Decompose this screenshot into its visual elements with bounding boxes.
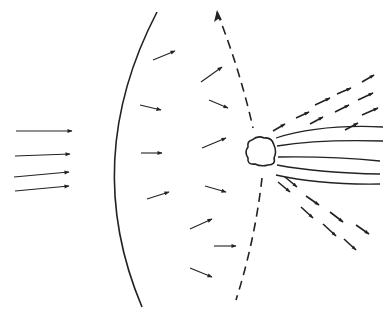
dashed-wavefront-upper <box>217 12 253 128</box>
scattered-arrow-icon <box>278 182 290 192</box>
arrow-right-icon <box>15 154 70 156</box>
field-arrow-icon <box>190 219 212 229</box>
scattered-arrow-icon <box>306 196 319 205</box>
scattered-arrow-icon <box>273 124 285 131</box>
streamlines <box>276 126 383 184</box>
streamline <box>277 165 380 174</box>
scattered-arrow-icon <box>323 224 336 236</box>
field-arrow-icon <box>190 268 212 277</box>
dashed-wavefront-lower <box>236 178 262 300</box>
arrow-right-icon <box>15 186 69 191</box>
field-arrow-icon <box>201 67 222 82</box>
scattered-arrow-icon <box>356 225 369 234</box>
scattered-arrow-icon <box>335 105 349 112</box>
dashed-wavefront <box>214 10 262 300</box>
scattering-diagram <box>0 0 389 316</box>
field-arrow-icon <box>153 51 175 60</box>
field-arrows <box>140 51 236 277</box>
scattered-arrow-icon <box>358 93 373 100</box>
field-arrow-icon <box>202 138 226 148</box>
scattered-arrow-icon <box>330 212 343 222</box>
scattered-arrow-icon <box>310 117 323 124</box>
streamline <box>276 126 383 138</box>
field-arrow-icon <box>205 186 226 192</box>
scattering-obstacle <box>246 137 276 166</box>
scattered-arrows-lower <box>278 177 369 250</box>
scattered-arrow-icon <box>301 207 313 218</box>
streamline <box>277 141 383 146</box>
streamline <box>278 157 380 161</box>
solid-wavefront <box>114 12 157 307</box>
diagram-canvas <box>0 0 389 316</box>
scattered-arrow-icon <box>344 239 356 250</box>
scattered-arrow-icon <box>315 98 330 105</box>
field-arrow-icon <box>140 105 161 110</box>
incident-wave-arrows <box>14 131 72 191</box>
scattered-arrow-icon <box>362 75 374 82</box>
scattered-arrows-upper <box>273 75 378 131</box>
scattered-arrow-icon <box>296 112 309 118</box>
scattered-arrow-icon <box>337 88 351 94</box>
field-arrow-icon <box>147 192 169 199</box>
arrow-right-icon <box>14 172 69 177</box>
scattered-arrow-icon <box>362 108 378 115</box>
field-arrow-icon <box>209 100 228 108</box>
